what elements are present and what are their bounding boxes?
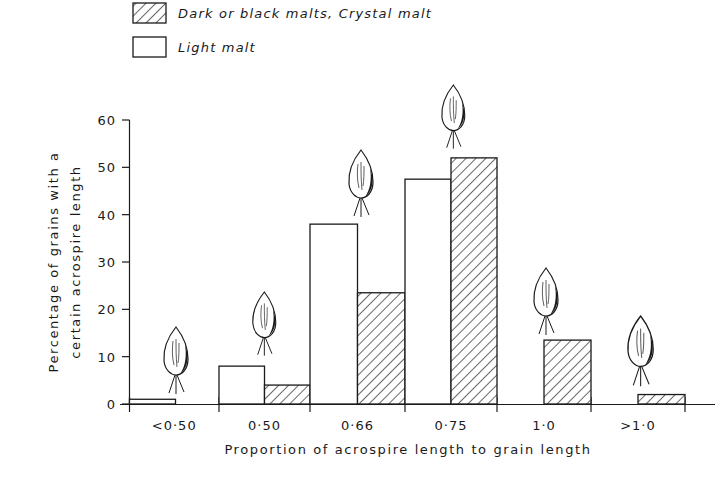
legend: Dark or black malts, Crystal malt Light … — [133, 3, 432, 57]
x-tick-label: 0·50 — [248, 418, 281, 433]
legend-label-dark-malt: Dark or black malts, Crystal malt — [178, 6, 432, 21]
y-tick-label: 10 — [97, 350, 116, 365]
y-axis-title-line1: Percentage of grains with a — [46, 151, 61, 372]
bar-light-malt — [405, 179, 451, 404]
x-axis-title: Proportion of acrospire length to grain … — [224, 442, 591, 457]
bar-dark-malt — [638, 395, 685, 404]
bar-dark-malt — [265, 385, 311, 404]
y-tick-label: 30 — [97, 255, 116, 270]
legend-label-light-malt: Light malt — [178, 40, 256, 55]
grain-icon — [164, 327, 188, 394]
y-tick-label: 20 — [97, 302, 116, 317]
x-tick-label: >1·0 — [620, 418, 656, 433]
bar-light-malt — [310, 224, 358, 404]
y-tick-label: 0 — [107, 397, 116, 412]
bar-light-malt — [130, 399, 176, 404]
x-tick-label: 0·66 — [341, 418, 374, 433]
grain-icon — [253, 292, 276, 356]
legend-item-dark-malt: Dark or black malts, Crystal malt — [133, 3, 432, 23]
legend-swatch-open — [133, 37, 166, 57]
y-tick-label: 60 — [97, 113, 116, 128]
bar-dark-malt — [451, 158, 497, 404]
bar-chart: Dark or black malts, Crystal malt Light … — [0, 0, 724, 484]
legend-swatch-hatched — [133, 3, 166, 23]
x-tick-label: 1·0 — [532, 418, 556, 433]
grain-icon — [349, 150, 373, 217]
grain-icon — [534, 268, 558, 335]
x-tick-label: 0·75 — [435, 418, 468, 433]
x-tick-label: <0·50 — [152, 418, 197, 433]
bars — [130, 158, 686, 404]
y-tick-label: 40 — [97, 208, 116, 223]
y-tick-label: 50 — [97, 160, 116, 175]
bar-dark-malt — [544, 340, 591, 404]
grain-icon — [628, 316, 653, 386]
y-axis-title-line2: certain acrospire length — [68, 165, 83, 358]
y-axis-ticks: 0102030405060 — [97, 113, 129, 412]
bar-dark-malt — [358, 293, 406, 404]
y-axis-title: Percentage of grains with a certain acro… — [46, 151, 83, 372]
grain-icon — [442, 85, 465, 149]
legend-item-light-malt: Light malt — [133, 37, 256, 57]
bar-light-malt — [219, 366, 265, 404]
